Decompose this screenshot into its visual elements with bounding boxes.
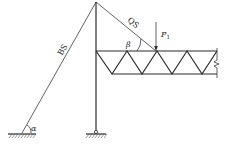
back-stay-cable — [22, 2, 96, 133]
left-ground-hatch — [9, 134, 36, 138]
label-load: P1 — [160, 30, 170, 40]
label-back-stay: BS — [56, 43, 69, 57]
truss-web-diagonals — [96, 51, 217, 74]
pin-support-icon — [94, 130, 97, 133]
label-angle-alpha: α — [31, 124, 37, 133]
angle-beta-arc — [137, 39, 141, 51]
truss-diagram: BS QS P1 β α — [0, 0, 227, 153]
column-ground-hatch — [86, 134, 107, 138]
label-angle-beta: β — [125, 40, 131, 49]
